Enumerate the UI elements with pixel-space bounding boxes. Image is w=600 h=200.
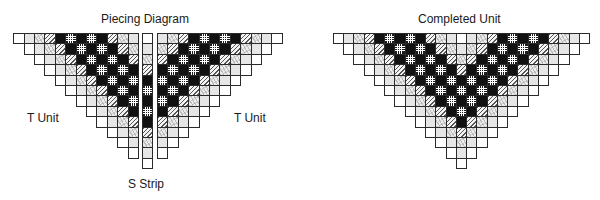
quilt-cell [209,95,220,106]
quilt-cell [579,33,590,44]
quilt-cell [507,106,518,117]
quilt-cell [230,75,241,86]
quilt-cell [240,64,251,75]
quilt-cell [456,158,467,169]
quilt-cell [558,54,569,65]
quilt-cell [178,127,189,138]
quilt-cell [466,147,477,158]
quilt-cell [251,54,262,65]
quilt-cell [261,43,272,54]
quilt-cell [157,147,168,158]
quilt-cell [487,127,498,138]
t-unit-left-label: T Unit [27,111,59,125]
quilt-cell [497,116,508,127]
quilt-cell [569,43,580,54]
quilt-cell [548,64,559,75]
piecing-diagram-title: Piecing Diagram [101,12,189,26]
quilt-cell [128,147,139,158]
completed-unit-title: Completed Unit [418,12,501,26]
quilt-cell [167,137,178,148]
quilt-cell [271,33,282,44]
quilt-cell [476,137,487,148]
quilt-cell [142,158,153,169]
quilt-cell [517,95,528,106]
quilt-cell [528,85,539,96]
s-strip-label: S Strip [128,177,164,191]
t-unit-right-label: T Unit [234,111,266,125]
quilt-cell [199,106,210,117]
quilt-cell [219,85,230,96]
quilt-cell [188,116,199,127]
quilt-cell [538,75,549,86]
